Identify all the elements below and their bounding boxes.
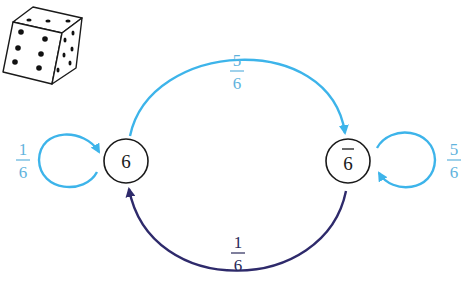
frac-numerator: 1 [19,140,28,159]
node-six-label: 6 [121,151,131,172]
self-loop-six [39,135,99,187]
markov-diagram: 6 6 5 6 1 6 1 6 5 6 [0,0,464,291]
frac-numerator: 1 [234,233,243,252]
frac-numerator: 5 [233,51,242,70]
frac-denominator: 6 [233,74,242,93]
node-not-six: 6 [326,139,370,183]
label-bottom-arc: 1 6 [231,233,245,275]
node-six: 6 [104,139,148,183]
self-loop-not-six [377,133,435,188]
frac-denominator: 6 [19,163,28,182]
frac-denominator: 6 [234,256,243,275]
frac-denominator: 6 [450,163,459,182]
label-self-loop-not-six: 5 6 [447,140,461,182]
node-not-six-label: 6 [343,153,353,174]
label-self-loop-six: 1 6 [16,140,30,182]
die-icon [3,7,82,84]
frac-numerator: 5 [450,140,459,159]
label-top-arc: 5 6 [230,51,244,93]
